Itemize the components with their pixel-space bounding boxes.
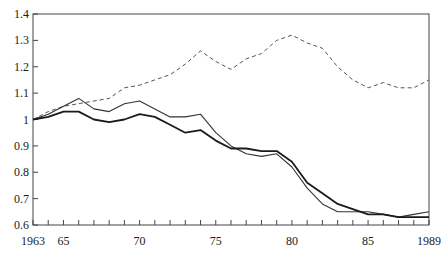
x-axis-tick-labels: 196365707580851989 bbox=[21, 234, 441, 248]
thick-series-line bbox=[33, 112, 429, 218]
x-axis-ticks bbox=[33, 220, 429, 225]
y-tick-label: 0.7 bbox=[14, 192, 29, 206]
x-tick-label: 65 bbox=[57, 234, 69, 248]
y-tick-label: 1.4 bbox=[14, 7, 29, 21]
y-tick-label: 0.9 bbox=[14, 139, 29, 153]
thin-series-line bbox=[33, 98, 429, 217]
x-tick-label: 1963 bbox=[21, 234, 45, 248]
x-tick-label: 75 bbox=[210, 234, 222, 248]
x-tick-label: 1989 bbox=[417, 234, 441, 248]
y-tick-label: 1 bbox=[23, 113, 29, 127]
data-series bbox=[33, 35, 429, 217]
y-tick-label: 0.6 bbox=[14, 218, 29, 232]
y-tick-label: 1.3 bbox=[14, 33, 29, 47]
line-chart: 196365707580851989 0.60.70.80.911.11.21.… bbox=[0, 0, 442, 258]
x-tick-label: 70 bbox=[134, 234, 146, 248]
y-axis-tick-labels: 0.60.70.80.911.11.21.31.4 bbox=[14, 7, 29, 232]
y-tick-label: 1.1 bbox=[14, 86, 29, 100]
x-tick-label: 85 bbox=[362, 234, 374, 248]
x-tick-label: 80 bbox=[286, 234, 298, 248]
y-tick-label: 0.8 bbox=[14, 165, 29, 179]
y-tick-label: 1.2 bbox=[14, 60, 29, 74]
dashed-series-line bbox=[33, 35, 429, 119]
